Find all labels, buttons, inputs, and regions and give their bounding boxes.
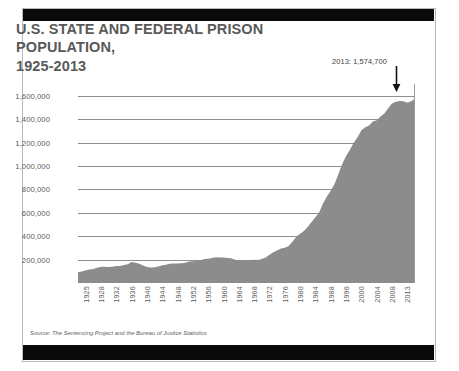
y-axis-tick-label: 600,000 — [22, 208, 50, 217]
y-axis-tick-label: 1,600,000 — [15, 91, 50, 100]
area-series — [56, 84, 415, 283]
y-axis-tick-label: 1,000,000 — [15, 161, 50, 170]
x-axis-tick-label: 1948 — [174, 286, 183, 303]
y-axis-tick-label: 1,200,000 — [15, 138, 50, 147]
x-axis-tick-label: 1956 — [204, 286, 213, 303]
x-axis-tick-label: 1932 — [112, 286, 121, 303]
x-axis-tick-label: 2004 — [373, 286, 382, 303]
chart-page: U.S. STATE AND FEDERAL PRISON POPULATION… — [0, 0, 459, 371]
source-note: Source: The Sentencing Project and the B… — [30, 330, 207, 336]
y-axis-labels: 1,600,0001,400,0001,200,0001,000,000800,… — [0, 84, 56, 283]
x-axis-labels: 1925192819321936194019441948195219561960… — [56, 286, 415, 322]
x-axis-tick-label: 1928 — [97, 286, 106, 303]
y-axis-tick-label: 1,400,000 — [15, 115, 50, 124]
x-axis-tick-label: 1996 — [342, 286, 351, 303]
x-axis-tick-label: 1984 — [311, 286, 320, 303]
x-axis-tick-label: 2008 — [388, 286, 397, 303]
y-axis-tick-label: 800,000 — [22, 185, 50, 194]
x-axis-tick-label: 1980 — [296, 286, 305, 303]
x-axis-tick-label: 1968 — [250, 286, 259, 303]
x-axis-tick-label: 1972 — [265, 286, 274, 303]
x-axis-tick-label: 1976 — [281, 286, 290, 303]
x-axis-tick-label: 1988 — [327, 286, 336, 303]
chart-title: U.S. STATE AND FEDERAL PRISON POPULATION… — [16, 20, 346, 75]
chart-title-line1: U.S. STATE AND FEDERAL PRISON POPULATION… — [16, 20, 346, 57]
x-axis-tick-label: 1925 — [82, 286, 91, 303]
bottom-black-band — [23, 345, 434, 360]
x-axis-tick-label: 2013 — [403, 286, 412, 303]
area-fill — [78, 99, 415, 283]
right-axis-line — [414, 84, 415, 283]
y-axis-tick-label: 200,000 — [22, 255, 50, 264]
plot-area — [56, 84, 415, 283]
y-axis-tick-label: 400,000 — [22, 232, 50, 241]
x-axis-tick-label: 1944 — [158, 286, 167, 303]
x-axis-tick-label: 1940 — [143, 286, 152, 303]
annotation-label: 2013: 1,574,700 — [332, 57, 387, 66]
x-axis-tick-label: 1964 — [235, 286, 244, 303]
chart-title-line2: 1925-2013 — [16, 57, 346, 75]
x-axis-tick-label: 2000 — [357, 286, 366, 303]
x-axis-tick-label: 1936 — [128, 286, 137, 303]
x-axis-tick-label: 1960 — [220, 286, 229, 303]
x-axis-tick-label: 1952 — [189, 286, 198, 303]
